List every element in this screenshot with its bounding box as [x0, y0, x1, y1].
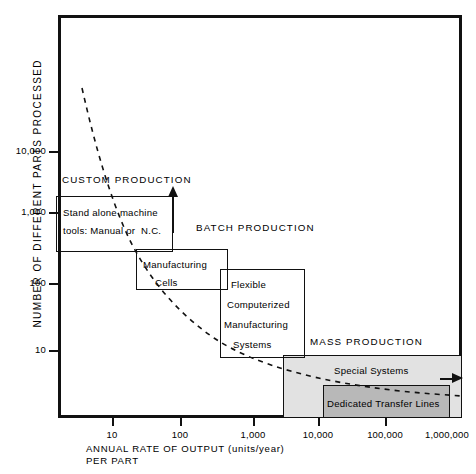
y-tick-label-10: 10 — [0, 344, 46, 355]
x-tick-label-10: 10 — [92, 429, 132, 440]
increasing-volume-arrow-icon — [452, 373, 463, 383]
x-tick-mark-10 — [112, 418, 114, 426]
label-fms-line1: Flexible — [231, 277, 266, 292]
x-tick-mark-1000 — [253, 418, 255, 426]
increasing-variety-arrow-stem — [172, 196, 174, 233]
y-tick-mark-10000 — [49, 151, 58, 153]
x-tick-label-100000: 100,000 — [354, 429, 416, 440]
x-axis-title-line1: ANNUAL RATE OF OUTPUT (units/year) — [86, 443, 284, 454]
y-tick-mark-10 — [49, 350, 58, 352]
label-special-systems: Special Systems — [334, 363, 409, 378]
heading-mass-production: MASS PRODUCTION — [310, 336, 423, 347]
y-tick-label-100: 100 — [0, 277, 46, 288]
x-tick-mark-100000 — [385, 418, 387, 426]
y-tick-mark-100 — [49, 283, 58, 285]
label-manufacturing-cells-line1: Manufacturing — [143, 257, 207, 272]
x-tick-mark-100 — [180, 418, 182, 426]
y-tick-label-10000: 10,000 — [0, 145, 46, 156]
increasing-variety-arrow-icon — [168, 186, 178, 197]
label-manufacturing-cells-line2: Cells — [155, 275, 178, 290]
label-fms-line4: Systems — [233, 337, 272, 352]
x-tick-mark-10000 — [318, 418, 320, 426]
x-axis-title: ANNUAL RATE OF OUTPUT (units/year)PER PA… — [86, 443, 284, 467]
figure-canvas: NUMBER OF DIFFERENT PARTS PROCESSED 10,0… — [0, 0, 476, 474]
x-tick-label-1000000: 1,000,000 — [418, 429, 476, 440]
label-fms-line3: Manufacturing — [224, 317, 288, 332]
label-dedicated-transfer-lines: Dedicated Transfer Lines — [327, 396, 440, 411]
label-custom-production-line1: Stand alone machine — [63, 205, 158, 220]
x-tick-label-10000: 10,000 — [290, 429, 346, 440]
heading-custom-production: CUSTOM PRODUCTION — [62, 174, 192, 185]
y-tick-label-1000: 1,000 — [0, 206, 46, 217]
heading-batch-production: BATCH PRODUCTION — [196, 222, 315, 233]
y-axis-title: NUMBER OF DIFFERENT PARTS PROCESSED — [32, 68, 43, 328]
label-fms-line2: Computerized — [227, 297, 290, 312]
x-tick-label-100: 100 — [158, 429, 202, 440]
x-axis-title-line2: PER PART — [86, 455, 139, 466]
x-tick-label-1000: 1,000 — [228, 429, 278, 440]
label-custom-production-line2: tools: Manual or N.C. — [63, 223, 161, 238]
